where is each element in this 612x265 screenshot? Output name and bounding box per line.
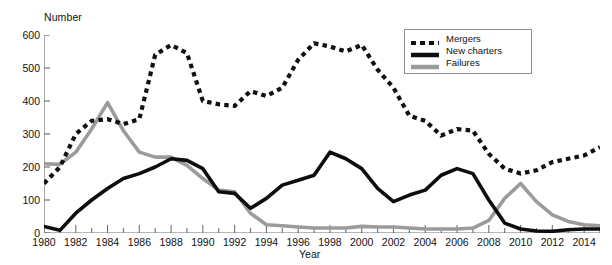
solid-gray-line-swatch [410, 58, 440, 68]
y-axis-tick-label: 500 [22, 62, 40, 74]
x-axis-tick-label: 1992 [223, 236, 246, 248]
y-axis-tick-label: 100 [22, 194, 40, 206]
x-axis-tick-label: 2004 [414, 236, 437, 248]
y-axis-tick-label: 200 [22, 161, 40, 173]
legend-item-failures: Failures [410, 57, 526, 69]
x-axis-title: Year [299, 248, 320, 260]
y-axis-tick-label: 300 [22, 128, 40, 140]
x-axis-tick-label: 1994 [255, 236, 278, 248]
x-axis-tick-label: 2012 [541, 236, 564, 248]
y-axis-tick-labels: 0100200300400500600 [0, 0, 40, 265]
legend-item-mergers: Mergers [410, 33, 526, 45]
x-axis-tick-label: 2014 [572, 236, 595, 248]
x-axis-tick-label: 1990 [191, 236, 214, 248]
x-axis-tick-label: 1988 [159, 236, 182, 248]
x-axis-tick-label: 1984 [96, 236, 119, 248]
x-axis-tick-label: 1996 [286, 236, 309, 248]
chart-legend: Mergers New charters Failures [404, 29, 532, 74]
legend-label-mergers: Mergers [446, 34, 481, 44]
x-axis-tick-label: 1998 [318, 236, 341, 248]
legend-label-failures: Failures [446, 58, 480, 68]
y-axis-ticks [44, 35, 50, 233]
x-axis-tick-label: 2006 [445, 236, 468, 248]
x-axis-tick-label: 1982 [64, 236, 87, 248]
x-axis-tick-label: 2002 [382, 236, 405, 248]
x-axis-tick-label: 2000 [350, 236, 373, 248]
bank-structure-chart: Number 0100200300400500600 1980198219841… [0, 0, 612, 265]
y-axis-title: Number [44, 11, 82, 23]
x-axis-tick-label: 1986 [128, 236, 151, 248]
legend-label-new-charters: New charters [446, 46, 502, 56]
dashed-line-swatch [410, 34, 440, 44]
series-line-new-charters [44, 152, 600, 231]
clipped-caption-strip [0, 0, 612, 7]
x-axis-tick-label: 2010 [509, 236, 532, 248]
y-axis-tick-label: 600 [22, 29, 40, 41]
x-axis-tick-label: 1980 [32, 236, 55, 248]
solid-black-line-swatch [410, 46, 440, 56]
x-axis-tick-label: 2008 [477, 236, 500, 248]
legend-item-new-charters: New charters [410, 45, 526, 57]
y-axis-tick-label: 400 [22, 95, 40, 107]
